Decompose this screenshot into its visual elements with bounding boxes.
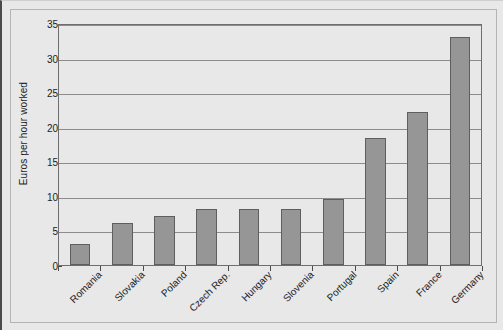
y-axis-ticks: 05101520253035 (28, 24, 58, 266)
bar-slot (143, 25, 185, 265)
bar-slot (59, 25, 101, 265)
bar-slot (312, 25, 354, 265)
bar (112, 223, 133, 265)
x-tick-label: Poland (159, 269, 189, 299)
y-tick-label: 5 (36, 226, 58, 237)
x-tick-label: Slovakia (112, 269, 147, 304)
bar (70, 244, 91, 265)
bar-slot (228, 25, 270, 265)
bar (196, 209, 217, 265)
plot-area (58, 24, 482, 266)
x-tick-label: Hungary (239, 269, 274, 304)
bar-slot (397, 25, 439, 265)
bar-slot (101, 25, 143, 265)
bar (323, 199, 344, 265)
y-tick-label: 15 (36, 157, 58, 168)
x-axis-labels: RomaniaSlovakiaPolandCzech Rep.HungarySl… (58, 269, 482, 327)
x-tick-label: Romania (68, 269, 104, 305)
x-tick-label: Spain (375, 269, 401, 295)
y-tick-label: 10 (36, 191, 58, 202)
y-tick-label: 0 (36, 261, 58, 272)
x-tick-label: Slovenia (281, 269, 316, 304)
bar (281, 209, 302, 265)
bar (154, 216, 175, 265)
bar-slot (354, 25, 396, 265)
bar (239, 209, 260, 265)
x-tick-label: Germany (449, 269, 486, 306)
bar (450, 37, 471, 265)
bar-slot (270, 25, 312, 265)
y-tick-label: 25 (36, 88, 58, 99)
bar-series (59, 25, 481, 265)
x-tick-label: Portugal (325, 269, 359, 303)
y-tick-label: 20 (36, 122, 58, 133)
y-tick-label: 35 (36, 19, 58, 30)
x-tick-mark (482, 266, 483, 271)
bar (407, 112, 428, 265)
chart-figure: Euros per hour worked 05101520253035 Rom… (0, 0, 503, 330)
y-tick-label: 30 (36, 53, 58, 64)
bar-slot (186, 25, 228, 265)
x-tick-label: France (414, 269, 444, 299)
bar-slot (439, 25, 481, 265)
bar (365, 138, 386, 265)
x-tick-label: Czech Rep. (187, 269, 232, 314)
